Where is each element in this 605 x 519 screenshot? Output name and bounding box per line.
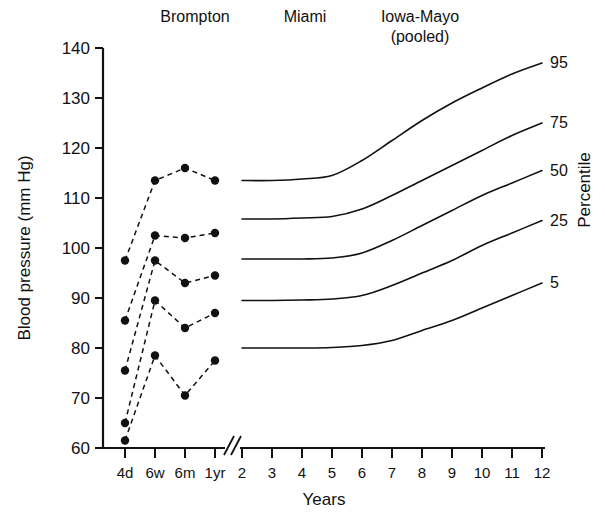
group-header-brompton: Brompton	[160, 8, 229, 25]
x-axis-tick-label: 3	[268, 464, 276, 481]
brompton-point-50-6w	[151, 256, 159, 264]
x-axis-tick-label: 6w	[145, 464, 164, 481]
percentile-curve-95	[242, 63, 542, 181]
brompton-series	[125, 168, 215, 441]
percentile-curve-5	[242, 283, 542, 348]
brompton-point-75-4d	[121, 316, 129, 324]
x-axis-ticks	[125, 448, 542, 458]
x-axis-tick-label: 10	[474, 464, 491, 481]
y-axis-tick-label: 140	[62, 39, 90, 58]
group-header-iowa-mayo: Iowa-Mayo	[381, 8, 459, 25]
brompton-line-95	[125, 168, 215, 261]
group-header-iowa-mayo-pooled: (pooled)	[391, 28, 450, 45]
brompton-point-25-1yr	[211, 309, 219, 317]
x-axis-tick-label: 4	[298, 464, 306, 481]
y-axis-tick-label: 100	[62, 239, 90, 258]
brompton-point-75-6w	[151, 231, 159, 239]
percentile-end-labels: 957550255	[550, 54, 568, 291]
y-axis-tick-label: 70	[71, 389, 90, 408]
x-axis-tick-label: 5	[328, 464, 336, 481]
y-axis-tick-label: 130	[62, 89, 90, 108]
percentile-label-95: 95	[550, 54, 568, 71]
x-axis-tick-label: 11	[504, 464, 520, 481]
right-axis-title: Percentile	[575, 152, 594, 228]
brompton-point-5-4d	[121, 436, 129, 444]
x-axis-tick-label: 2	[238, 464, 246, 481]
brompton-point-25-6m	[181, 324, 189, 332]
x-axis-tick-label: 6	[358, 464, 366, 481]
brompton-point-50-6m	[181, 279, 189, 287]
brompton-point-75-6m	[181, 234, 189, 242]
x-axis-tick-label: 6m	[175, 464, 196, 481]
y-axis-ticks	[95, 48, 103, 448]
y-axis-tick-label: 80	[71, 339, 90, 358]
brompton-line-50	[125, 261, 215, 371]
percentile-curves	[242, 63, 542, 348]
brompton-data-points	[121, 164, 219, 445]
y-axis-tick-label: 110	[63, 189, 90, 208]
x-axis-tick-label: 1yr	[205, 464, 226, 481]
percentile-label-75: 75	[550, 114, 568, 131]
axes	[103, 48, 545, 455]
y-axis-tick-label: 120	[62, 139, 90, 158]
percentile-label-25: 25	[550, 212, 568, 229]
y-axis-tick-label: 90	[71, 289, 90, 308]
group-headers: Brompton Miami Iowa-Mayo (pooled)	[160, 8, 459, 45]
brompton-point-75-1yr	[211, 229, 219, 237]
brompton-point-5-1yr	[211, 356, 219, 364]
x-axis-tick-labels: 4d6w6m1yr23456789101112	[117, 464, 551, 481]
brompton-point-25-4d	[121, 419, 129, 427]
y-axis-title: Blood pressure (mm Hg)	[15, 155, 34, 340]
percentile-curve-25	[242, 221, 542, 301]
x-axis-tick-label: 7	[388, 464, 396, 481]
brompton-point-25-6w	[151, 296, 159, 304]
x-axis-tick-label: 8	[418, 464, 426, 481]
x-axis-title: Years	[303, 490, 346, 509]
chart-canvas: Brompton Miami Iowa-Mayo (pooled) 140130…	[0, 0, 605, 519]
brompton-point-95-6w	[151, 176, 159, 184]
y-axis-tick-label: 60	[71, 439, 90, 458]
brompton-point-5-6w	[151, 351, 159, 359]
percentile-curve-50	[242, 171, 542, 260]
brompton-point-5-6m	[181, 391, 189, 399]
brompton-line-25	[125, 301, 215, 424]
blood-pressure-percentile-chart: Brompton Miami Iowa-Mayo (pooled) 140130…	[0, 0, 605, 519]
percentile-label-5: 5	[550, 274, 559, 291]
brompton-point-95-1yr	[211, 176, 219, 184]
x-axis-tick-label: 9	[448, 464, 456, 481]
x-axis-tick-label: 12	[534, 464, 551, 481]
brompton-point-95-4d	[121, 256, 129, 264]
brompton-point-50-4d	[121, 366, 129, 374]
brompton-point-95-6m	[181, 164, 189, 172]
group-header-miami: Miami	[284, 8, 327, 25]
x-axis-tick-label: 4d	[117, 464, 134, 481]
brompton-point-50-1yr	[211, 271, 219, 279]
percentile-curve-75	[242, 123, 542, 219]
brompton-line-75	[125, 233, 215, 321]
percentile-label-50: 50	[550, 162, 568, 179]
y-axis-tick-labels: 14013012011010090807060	[62, 39, 90, 458]
